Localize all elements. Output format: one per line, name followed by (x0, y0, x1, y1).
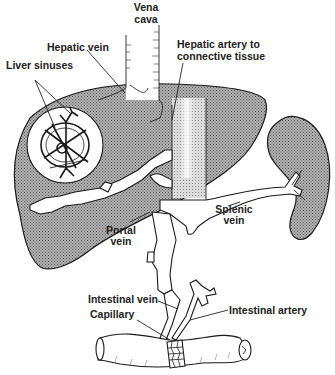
label-capillary: Capillary (90, 308, 135, 320)
liver-sinus-inset (27, 107, 103, 183)
label-portal-vein-2: vein (110, 235, 131, 247)
capillary-network (167, 340, 185, 368)
label-vena-cava-2: cava (134, 13, 158, 25)
label-hepatic-artery-2: connective tissue (177, 50, 265, 62)
portal-vein (152, 212, 176, 294)
label-intestinal-vein: Intestinal vein (88, 293, 158, 305)
label-liver-sinuses: Liver sinuses (6, 59, 73, 71)
intestinal-artery (172, 280, 216, 340)
label-hepatic-artery: Hepatic artery to (177, 38, 260, 50)
label-vena-cava: Vena (134, 1, 159, 13)
label-splenic-vein-2: vein (223, 214, 244, 226)
label-intestinal-artery: Intestinal artery (229, 304, 307, 316)
hepatic-portal-diagram: Vena cava Hepatic vein Hepatic artery to… (0, 0, 335, 375)
vena-cava-lower (172, 98, 206, 200)
label-hepatic-vein: Hepatic vein (47, 41, 109, 53)
